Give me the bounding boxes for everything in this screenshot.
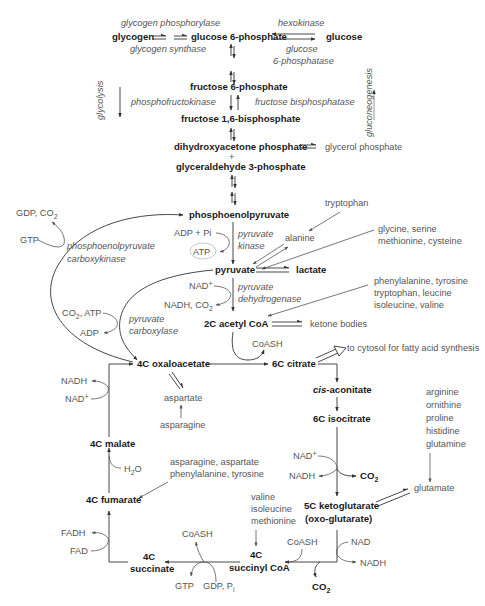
metabolite-glycogen: glycogen (112, 31, 154, 42)
metabolite-acetyl-coa: 2C acetyl CoA (204, 318, 269, 329)
gdp-to-gtp-curve (191, 562, 216, 582)
enzyme-fructose-bisphosphatase: fructose bisphosphatase (255, 97, 355, 107)
side-phenylalanine-tyrosine: phenylalanine, tyrosine (374, 276, 468, 286)
reversible-arrows-g3p-pep (232, 175, 235, 205)
coash-in-kgdh-curve (287, 549, 302, 562)
enzyme-pepck-line2: carboxykinase (67, 254, 126, 264)
cofactor-adp: ADP (80, 328, 99, 338)
metabolite-glyceraldehyde-3-phosphate: glyceraldehyde 3-phosphate (176, 161, 306, 172)
side-isoleucine-valine: isoleucine, valine (374, 300, 444, 310)
metabolite-fumarate: 4C fumarate (86, 494, 141, 505)
side-glycerol-phosphate: glycerol phosphate (325, 142, 402, 152)
co2-release-idh-curve (337, 469, 356, 476)
side-alanine: alanine (285, 233, 315, 243)
cofactor-gtp-scs: GTP (175, 581, 194, 591)
side-methionine-cysteine: methionine, cysteine (378, 236, 462, 246)
reversible-arrows-acetylcoa-ketone-bodies (272, 322, 302, 326)
cofactor-nadh-idh: NADH (289, 471, 315, 481)
cofactor-nadh-kgdh: NADH (360, 558, 386, 568)
reversible-arrows-ketoglutarate-glutamate (376, 489, 410, 506)
side-proline: proline (426, 413, 454, 423)
metabolite-ketoglutarate: 5C ketoglutarate (304, 500, 379, 511)
nad-to-nadh-idh-curve (318, 456, 337, 476)
side-isoleucine: isoleucine (251, 504, 292, 514)
cofactor-nad-pdh: NAD+ (189, 280, 213, 291)
cofactor-coash-kgdh: CoASH (287, 537, 318, 547)
enzyme-hexokinase: hexokinase (278, 18, 324, 28)
cofactor-co2-atp: CO2, ATP (62, 308, 101, 320)
cofactor-adp-pi: ADP + Pi (174, 228, 211, 238)
cofactor-coash-citrate-synthase: CoASH (252, 339, 283, 349)
nad-to-nadh-curve (214, 286, 231, 305)
side-histidine: histidine (426, 426, 460, 436)
co2-release-kgdh-curve (315, 562, 320, 577)
side-ornithine: ornithine (426, 400, 461, 410)
metabolite-isocitrate: 6C isocitrate (313, 413, 371, 424)
side-phenylalanine-tyrosine-2: phenylalanine, tyrosine (170, 469, 264, 479)
enzyme-pyruvate-kinase-line2: kinase (238, 241, 265, 251)
arrows-f6p-f16bp (231, 95, 238, 110)
cofactor-h2o: H2O (124, 464, 142, 476)
enzyme-pdh-line1: pyruvate (237, 282, 273, 292)
side-glutamine: glutamine (426, 439, 466, 449)
cofactor-nad-kgdh: NAD (351, 537, 371, 547)
enzyme-pyruvate-kinase-line1: pyruvate (237, 229, 273, 239)
reversible-arrows-g6p-f6p (231, 44, 234, 84)
reversible-arrows-glycogen-g6p (153, 36, 187, 39)
metabolite-fructose-6-phosphate: fructose 6-phosphate (190, 81, 288, 92)
cofactor-nad-idh: NAD+ (293, 450, 317, 461)
side-glycine-serine: glycine, serine (378, 224, 437, 234)
adp-to-atp-curve (216, 233, 229, 252)
reversible-arrows-oaa-aspartate (169, 372, 183, 389)
metabolite-pyruvate: pyruvate (215, 264, 255, 275)
cofactor-atp: ATP (193, 247, 210, 257)
metabolite-citrate: 6C citrate (272, 358, 316, 369)
label-gluconeogenesis: gluconeogenesis (364, 68, 374, 137)
label-glycolysis: glycolysis (95, 80, 105, 120)
metabolite-cis-aconitate: cis-aconitate (313, 384, 372, 395)
arrow-tryptophan-to-alanine (309, 212, 340, 231)
cofactor-fad: FAD (70, 546, 88, 556)
metabolite-malate: 4C malate (90, 438, 135, 449)
enzyme-pdh-line2: dehydrogenase (238, 294, 301, 304)
enzyme-pyruvate-carboxylase-line1: pyruvate (128, 314, 164, 324)
arrow-aminoacids-to-fumarate (139, 482, 168, 498)
side-tryptophan: tryptophan (325, 198, 368, 208)
enzyme-pepck-line1: phosphoenolpyruvate (66, 241, 155, 251)
enzyme-glycogen-synthase: glycogen synthase (130, 44, 206, 54)
enzyme-phosphofructokinase: phosphofructokinase (130, 97, 216, 107)
side-glutamate: glutamate (414, 483, 454, 493)
cofactor-fadh: FADH (61, 528, 86, 538)
metabolite-phosphoenolpyruvate: phosphoenolpyruvate (189, 209, 289, 220)
metabolite-fructose-1-6-bisphosphate: fructose 1,6-bisphosphate (181, 113, 300, 124)
metabolite-glucose-6-phosphate: glucose 6-phosphate (191, 31, 287, 42)
arrow-succinate-to-fumarate (109, 511, 128, 562)
cofactor-nad-mdh: NAD+ (65, 393, 89, 404)
cofactor-co2-idh: CO2 (360, 470, 378, 483)
metabolite-succinylcoa-line1: 4C (250, 549, 262, 560)
metabolite-dihydroxyacetone-phosphate: dihydroxyacetone phosphate (174, 141, 307, 152)
enzyme-pyruvate-carboxylase-line2: carboxylase (129, 326, 178, 336)
arrow-citrate-to-cisaconitate (318, 364, 337, 382)
arrow-malate-to-oaa (109, 364, 133, 437)
side-ketone-bodies: ketone bodies (310, 319, 368, 329)
metabolite-oxoglutarate: (oxo-glutarate) (305, 513, 372, 524)
nad-to-nadh-mdh-curve (91, 381, 108, 399)
metabolite-glucose: glucose (326, 31, 362, 42)
side-arginine: arginine (426, 387, 459, 397)
cofactor-gdp-pi: GDP, Pi (203, 581, 235, 593)
gtp-to-gdp-curve (38, 222, 64, 247)
side-valine: valine (251, 492, 275, 502)
pepck-arrow-oaa-to-pep (51, 215, 183, 362)
co2-atp-to-adp-curve (103, 313, 117, 333)
cofactor-co2-kgdh: CO2 (312, 581, 330, 594)
metabolite-lactate: lactate (296, 264, 326, 275)
hollow-arrow-to-cytosol (316, 346, 346, 362)
side-fatty-acid-synthesis: to cytosol for fatty acid synthesis (347, 343, 480, 353)
metabolite-succinate-line2: succinate (130, 563, 174, 574)
side-aspartate: aspartate (164, 393, 202, 403)
fad-to-fadh-curve (91, 533, 108, 551)
enzyme-glycogen-phosphorylase: glycogen phosphorylase (121, 18, 220, 28)
cofactor-gdp-co2: GDP, CO2 (16, 208, 58, 220)
side-asparagine-aspartate: asparagine, aspartate (170, 457, 259, 467)
